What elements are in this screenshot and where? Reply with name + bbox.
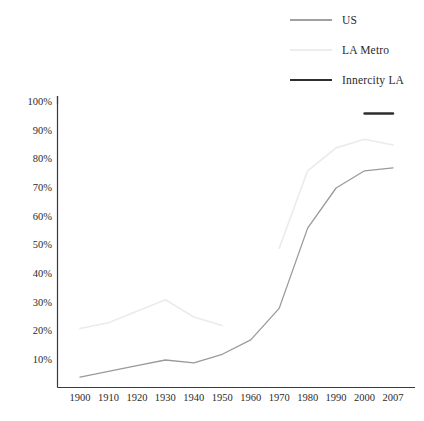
series-line-la-metro <box>80 300 222 329</box>
x-tick-label: 2007 <box>373 392 413 404</box>
series-line-us <box>80 168 393 377</box>
series-line-la-metro <box>279 139 393 248</box>
plot-area <box>0 0 424 421</box>
x-axis-tick-labels: 1900191019201930194019501960197019801990… <box>0 392 424 414</box>
line-chart: US LA Metro Innercity LA 100%90%80%70%60… <box>0 0 424 421</box>
